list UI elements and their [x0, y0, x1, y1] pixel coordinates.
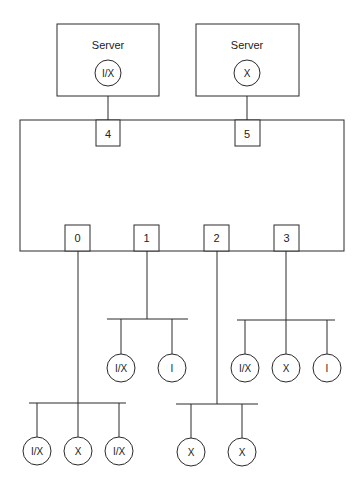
port-0: 0 [65, 225, 90, 251]
svg-text:1: 1 [143, 232, 149, 244]
svg-text:I: I [171, 363, 174, 374]
svg-text:X: X [188, 447, 195, 458]
svg-text:X: X [283, 363, 290, 374]
port-3: 3 [274, 225, 299, 251]
svg-text:I/X: I/X [113, 446, 126, 457]
svg-text:4: 4 [105, 128, 111, 140]
server-right: Server X [196, 24, 299, 96]
svg-text:3: 3 [283, 232, 289, 244]
svg-text:I/X: I/X [102, 68, 115, 79]
port-1: 1 [134, 225, 159, 251]
svg-text:I/X: I/X [239, 363, 252, 374]
bus-port-3: I/X X I [231, 251, 341, 382]
svg-text:0: 0 [74, 232, 80, 244]
svg-text:X: X [244, 68, 251, 79]
network-diagram: Server I/X Server X 4 5 0 1 2 3 [0, 0, 361, 495]
svg-text:I/X: I/X [31, 446, 44, 457]
svg-text:2: 2 [213, 232, 219, 244]
svg-text:I: I [326, 363, 329, 374]
bus-port-1: I/X I [107, 251, 188, 382]
port-5: 5 [235, 120, 260, 146]
server-right-label: Server [231, 39, 264, 51]
port-2: 2 [204, 225, 229, 251]
server-left: Server I/X [57, 24, 159, 96]
svg-text:X: X [239, 447, 246, 458]
svg-text:5: 5 [244, 128, 250, 140]
svg-text:X: X [75, 446, 82, 457]
server-left-label: Server [92, 39, 125, 51]
port-4: 4 [96, 120, 120, 146]
svg-text:I/X: I/X [115, 363, 128, 374]
